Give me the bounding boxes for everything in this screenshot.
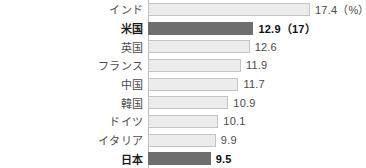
value-label: 11.7 xyxy=(243,78,264,90)
value-label: 10.9 xyxy=(233,97,255,109)
value-label: 9.5 xyxy=(216,153,232,165)
chart-row: 米国12.9（17） xyxy=(0,19,359,38)
category-label: 英国 xyxy=(0,39,143,55)
bar xyxy=(148,134,216,147)
bar xyxy=(148,78,238,91)
category-label: イタリア xyxy=(0,132,143,148)
chart-row: イタリア9.9 xyxy=(0,131,359,150)
value-label: 9.9 xyxy=(221,134,237,146)
category-label: 米国 xyxy=(0,20,143,36)
value-label: 12.9（17） xyxy=(258,20,315,36)
chart-row: 中国11.7 xyxy=(0,75,359,94)
category-label: インド xyxy=(0,1,143,17)
bar xyxy=(148,152,211,165)
chart-row: 日本9.5 xyxy=(0,149,359,168)
chart-row: 韓国10.9 xyxy=(0,93,359,112)
category-label: ドイツ xyxy=(0,113,143,129)
value-label: 12.6 xyxy=(255,41,277,53)
bar xyxy=(148,115,218,128)
value-label: 11.9 xyxy=(246,59,267,71)
chart-row: インド17.4（%） xyxy=(0,0,359,19)
value-label: 10.1 xyxy=(223,115,245,127)
chart-row: ドイツ10.1 xyxy=(0,112,359,131)
category-label: フランス xyxy=(0,57,143,73)
chart-row: 英国12.6 xyxy=(0,37,359,56)
bar xyxy=(148,96,228,109)
bar xyxy=(148,22,253,35)
bar xyxy=(148,59,241,72)
value-label: 17.4（%） xyxy=(315,1,366,17)
bar xyxy=(148,3,310,16)
category-label: 中国 xyxy=(0,76,143,92)
category-label: 日本 xyxy=(0,151,143,167)
category-label: 韓国 xyxy=(0,95,143,111)
chart-row: フランス11.9 xyxy=(0,56,359,75)
bar xyxy=(148,40,250,53)
